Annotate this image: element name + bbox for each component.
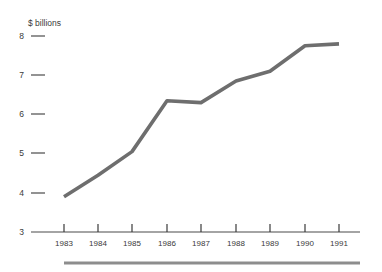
line-chart: $ billions 8 7 6 5 4 3 1983 1984 1985 19…: [0, 0, 382, 272]
x-tick-label-1989: 1989: [261, 239, 279, 248]
y-tick-label-6: 6: [19, 109, 24, 119]
y-axis-unit-label: $ billions: [28, 18, 61, 28]
y-tick-label-4: 4: [19, 188, 24, 198]
x-tick-label-1991: 1991: [330, 239, 348, 248]
y-tick-label-8: 8: [19, 31, 24, 41]
chart-canvas: $ billions 8 7 6 5 4 3 1983 1984 1985 19…: [0, 0, 382, 272]
y-tick-label-5: 5: [19, 148, 24, 158]
y-tick-label-7: 7: [19, 70, 24, 80]
data-series-line: [64, 44, 339, 197]
x-tick-label-1983: 1983: [55, 239, 73, 248]
y-tick-label-3: 3: [19, 227, 24, 237]
x-tick-label-1987: 1987: [192, 239, 210, 248]
x-tick-label-1985: 1985: [123, 239, 141, 248]
x-tick-label-1984: 1984: [89, 239, 107, 248]
x-tick-label-1990: 1990: [296, 239, 314, 248]
x-tick-label-1988: 1988: [227, 239, 245, 248]
x-tick-label-1986: 1986: [158, 239, 176, 248]
